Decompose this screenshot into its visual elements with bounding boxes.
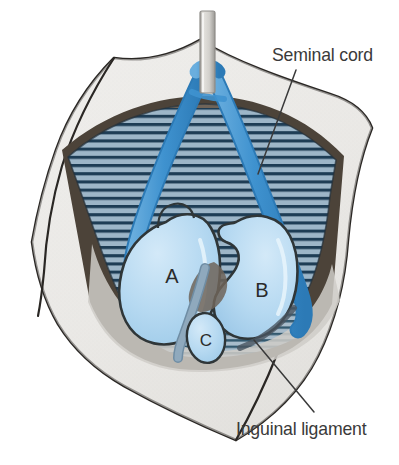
structure-b-letter: B xyxy=(255,279,268,301)
anatomical-figure: A B C Seminal xyxy=(0,0,399,465)
inguinal-ligament-label: Inguinal ligament xyxy=(236,419,366,438)
retractor-tube xyxy=(200,11,215,93)
illustration-canvas: A B C xyxy=(0,0,399,465)
seminal-cord-label: Seminal cord xyxy=(272,45,373,64)
structure-a-letter: A xyxy=(165,265,179,287)
structure-c-letter: C xyxy=(200,331,212,350)
